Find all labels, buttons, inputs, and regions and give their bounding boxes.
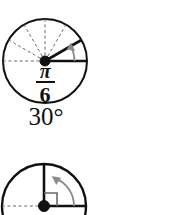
radian-measure-fraction: π 6 <box>28 63 62 106</box>
degree-measure-label: 30° <box>16 104 76 129</box>
vertex-dot <box>39 201 50 212</box>
rotation-arrow <box>52 177 74 206</box>
rotation-arc <box>56 178 74 206</box>
math-figure: π 6 30° <box>0 0 183 215</box>
fraction-numerator: π <box>28 63 62 80</box>
dashed-ray-150 <box>9 40 45 61</box>
unit-circle-right-angle-diagram <box>0 155 183 215</box>
dashed-ray-120 <box>24 25 45 61</box>
terminal-side-ray <box>45 40 81 61</box>
